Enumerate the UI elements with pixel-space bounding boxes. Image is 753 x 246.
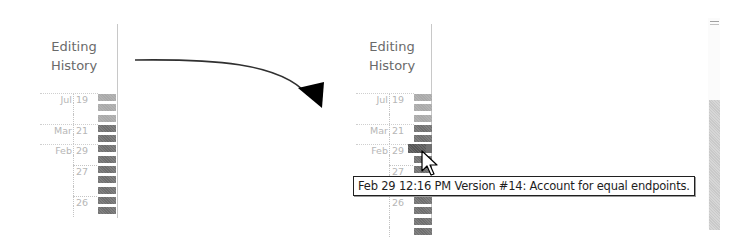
version-bar[interactable] — [98, 207, 116, 214]
version-bar[interactable] — [414, 104, 432, 111]
day-divider — [389, 144, 390, 154]
version-bar[interactable] — [98, 125, 116, 132]
version-bar[interactable] — [414, 197, 432, 204]
history-row: Mar21 — [356, 124, 434, 134]
day-divider — [389, 134, 390, 144]
history-row: Jul19 — [40, 93, 118, 103]
title-line-2: History — [34, 56, 114, 75]
day-divider — [73, 93, 74, 103]
scrollbar-thumb[interactable] — [709, 100, 720, 230]
day-divider — [73, 155, 74, 165]
day-divider — [389, 103, 390, 113]
day-divider — [73, 124, 74, 134]
day-divider — [73, 134, 74, 144]
history-row — [40, 134, 118, 144]
history-row — [356, 114, 434, 124]
history-row: 27 — [40, 165, 118, 175]
day-divider — [73, 186, 74, 196]
day-divider — [73, 103, 74, 113]
version-bar[interactable] — [98, 176, 116, 183]
editing-history-panel-hover: Editing History Jul19Mar21Feb292726 — [340, 0, 460, 246]
day-divider — [389, 114, 390, 124]
day-divider — [389, 206, 390, 216]
history-row — [40, 175, 118, 185]
title-line-1: Editing — [352, 37, 432, 56]
history-row — [40, 103, 118, 113]
version-bar[interactable] — [414, 125, 432, 132]
version-bar[interactable] — [414, 218, 432, 225]
version-bar[interactable] — [98, 187, 116, 194]
day-divider — [389, 165, 390, 175]
day-divider — [73, 144, 74, 154]
history-row — [40, 155, 118, 165]
version-bar[interactable] — [98, 104, 116, 111]
version-bar[interactable] — [98, 156, 116, 163]
panel-title: Editing History — [34, 37, 114, 75]
day-divider — [73, 196, 74, 206]
day-divider — [389, 93, 390, 103]
history-row: Jul19 — [356, 93, 434, 103]
day-divider — [73, 206, 74, 216]
mouse-pointer-icon — [420, 150, 442, 178]
version-bar[interactable] — [414, 115, 432, 122]
history-timeline: Jul19Mar21Feb292726 — [40, 93, 118, 217]
history-row — [356, 217, 434, 227]
day-divider — [389, 217, 390, 227]
history-row: Feb29 — [40, 144, 118, 154]
title-line-1: Editing — [34, 37, 114, 56]
day-divider — [389, 227, 390, 237]
version-bar[interactable] — [98, 166, 116, 173]
history-row — [356, 227, 434, 237]
history-row — [40, 114, 118, 124]
version-bar[interactable] — [98, 115, 116, 122]
history-row: Mar21 — [40, 124, 118, 134]
version-bar[interactable] — [414, 207, 432, 214]
history-row: 26 — [356, 196, 434, 206]
day-divider — [73, 175, 74, 185]
version-bar[interactable] — [414, 228, 432, 235]
history-row — [356, 103, 434, 113]
vertical-scrollbar[interactable] — [708, 18, 720, 228]
editing-history-panel-before: Editing History Jul19Mar21Feb292726 — [0, 0, 120, 246]
panel-title: Editing History — [352, 37, 432, 75]
version-bar[interactable] — [98, 94, 116, 101]
version-tooltip: Feb 29 12:16 PM Version #14: Account for… — [353, 176, 695, 196]
day-divider — [73, 165, 74, 175]
version-bar[interactable] — [414, 94, 432, 101]
day-divider — [389, 196, 390, 206]
scrollbar-grip-icon[interactable] — [710, 21, 719, 25]
history-row — [40, 206, 118, 216]
curved-arrow-icon — [130, 50, 330, 110]
history-row — [356, 134, 434, 144]
version-bar[interactable] — [98, 145, 116, 152]
history-row — [356, 206, 434, 216]
history-row — [40, 186, 118, 196]
day-divider — [73, 114, 74, 124]
title-line-2: History — [352, 56, 432, 75]
day-divider — [389, 124, 390, 134]
version-bar[interactable] — [98, 197, 116, 204]
history-row: 26 — [40, 196, 118, 206]
day-divider — [389, 155, 390, 165]
version-bar[interactable] — [98, 135, 116, 142]
version-bar[interactable] — [414, 135, 432, 142]
